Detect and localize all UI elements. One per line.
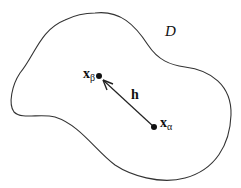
point-alpha-dot — [151, 124, 157, 130]
point-beta-label: xβ — [83, 66, 95, 83]
vector-h-line — [103, 80, 154, 127]
region-label: D — [164, 23, 176, 39]
vector-h-label: h — [131, 87, 139, 102]
point-beta-dot — [96, 73, 102, 79]
domain-diagram: D xβ h xα — [0, 0, 241, 188]
point-alpha-label: xα — [160, 115, 173, 132]
